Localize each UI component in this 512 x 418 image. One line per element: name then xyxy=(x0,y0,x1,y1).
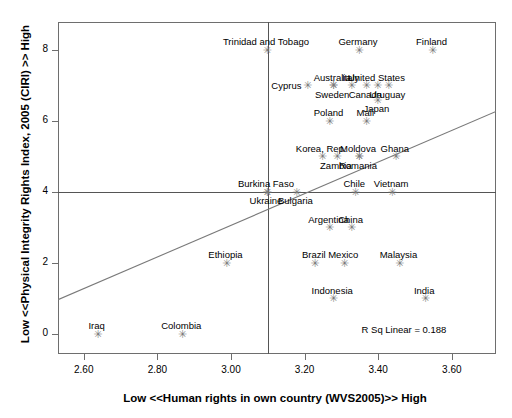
data-point-label: Colombia xyxy=(161,320,201,331)
data-point-label: Mexico xyxy=(328,249,358,260)
x-tick-mark xyxy=(157,354,158,360)
data-point-label: Germany xyxy=(338,36,377,47)
data-point-label: Bulgaria xyxy=(278,195,313,206)
data-point-label: Indonesia xyxy=(312,285,353,296)
data-point-label: Chile xyxy=(343,178,365,189)
data-point-label: Vietnam xyxy=(374,178,409,189)
data-point-label: Romania xyxy=(339,160,377,171)
data-point-label: Iraq xyxy=(88,320,104,331)
data-point-label: Poland xyxy=(314,107,344,118)
x-tick-mark xyxy=(231,354,232,360)
x-tick-label: 3.20 xyxy=(285,364,325,375)
x-tick-label: 3.60 xyxy=(432,364,472,375)
x-axis-title: Low <<Human rights in own country (WVS20… xyxy=(60,392,490,404)
data-point-label: Sweden xyxy=(315,89,349,100)
x-tick-label: 3.40 xyxy=(358,364,398,375)
r-squared-annotation: R Sq Linear = 0.188 xyxy=(362,324,447,335)
x-tick-label: 2.80 xyxy=(137,364,177,375)
x-tick-label: 3.00 xyxy=(211,364,251,375)
data-point-label: Burkina Faso xyxy=(238,178,294,189)
y-tick-label: 2 xyxy=(30,256,48,267)
data-point-label: Finland xyxy=(416,36,447,47)
data-point-label: Malaysia xyxy=(380,249,418,260)
x-tick-mark xyxy=(84,354,85,360)
data-point-label: Moldova xyxy=(340,143,376,154)
y-tick-label: 6 xyxy=(30,114,48,125)
y-tick-label: 8 xyxy=(30,43,48,54)
data-point-label: Ethiopia xyxy=(208,249,242,260)
data-point-label: Mali xyxy=(357,107,374,118)
x-tick-label: 2.60 xyxy=(64,364,104,375)
data-point-label: Trinidad and Tobago xyxy=(223,36,309,47)
y-axis-title: Low <<Physical Integrity Rights Index, 2… xyxy=(14,4,36,364)
data-point-label: Ghana xyxy=(381,143,410,154)
data-point-label: China xyxy=(338,214,363,225)
data-point-label: Cyprus xyxy=(271,80,301,91)
x-tick-mark xyxy=(452,354,453,360)
data-point-label: India xyxy=(414,285,435,296)
y-tick-label: 4 xyxy=(30,185,48,196)
scatter-plot-chart: Low <<Physical Integrity Rights Index, 2… xyxy=(0,0,512,418)
y-tick-label: 0 xyxy=(30,327,48,338)
data-point-label: Brazil xyxy=(302,249,326,260)
x-tick-mark xyxy=(378,354,379,360)
data-point-label: Uruguay xyxy=(369,89,405,100)
data-point-label: Korea, Rep. xyxy=(296,143,347,154)
x-tick-mark xyxy=(305,354,306,360)
data-point-label: United States xyxy=(348,72,405,83)
